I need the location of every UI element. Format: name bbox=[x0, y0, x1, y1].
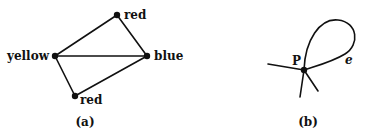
figure-b: P e (b) bbox=[268, 20, 355, 129]
node-yellow bbox=[52, 53, 58, 59]
edge-yellow-red-top bbox=[55, 15, 117, 56]
figure-canvas: red yellow blue red (a) P e (b) bbox=[0, 0, 365, 139]
node-red-bottom bbox=[72, 93, 78, 99]
edge-red-bottom-blue bbox=[75, 56, 147, 96]
node-red-top bbox=[114, 12, 120, 18]
figure-a: red yellow blue red (a) bbox=[6, 8, 184, 129]
label-yellow: yellow bbox=[6, 49, 50, 63]
vertex-p bbox=[301, 67, 307, 73]
label-blue: blue bbox=[154, 49, 184, 63]
edge-down-right bbox=[304, 70, 318, 91]
caption-b: (b) bbox=[298, 115, 318, 129]
label-red-top: red bbox=[124, 8, 147, 22]
edge-down bbox=[300, 70, 304, 97]
caption-a: (a) bbox=[75, 115, 94, 129]
label-red-bottom: red bbox=[80, 93, 103, 107]
edge-yellow-red-bottom bbox=[55, 56, 75, 96]
label-vertex-p: P bbox=[292, 54, 301, 68]
label-loop-e: e bbox=[345, 53, 353, 67]
node-blue bbox=[144, 53, 150, 59]
